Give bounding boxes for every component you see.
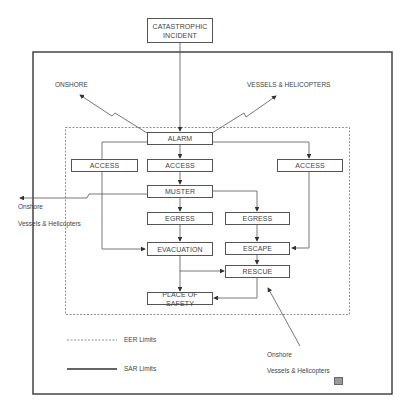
label-vessels-left: Vessels & Helicopters: [18, 220, 81, 227]
label-onshore-top: ONSHORE: [55, 81, 88, 88]
node-evacuation: EVACUATION: [147, 242, 213, 256]
label-vessels-bottom: Vessels & Helicopters: [267, 367, 330, 374]
label-onshore-left: Onshore: [18, 203, 43, 210]
node-alarm: ALARM: [147, 132, 213, 145]
legend-sar-label: SAR Limits: [124, 365, 156, 372]
node-access-left: ACCESS: [71, 159, 138, 172]
node-rescue: RESCUE: [225, 265, 290, 278]
node-place-of-safety: PLACE OF SAFETY: [147, 292, 213, 305]
node-catastrophic-incident: CATASTROPHIC INCIDENT: [147, 18, 213, 43]
node-access-center: ACCESS: [147, 159, 213, 172]
node-egress-center: EGRESS: [147, 212, 213, 225]
label-onshore-bottom: Onshore: [267, 351, 292, 358]
node-escape: ESCAPE: [225, 242, 290, 255]
legend-eer-label: EER Limits: [124, 336, 156, 343]
node-egress-right: EGRESS: [225, 212, 290, 225]
paste-options-icon[interactable]: [334, 377, 343, 385]
node-access-right: ACCESS: [277, 159, 343, 172]
diagram-lines: [0, 0, 409, 412]
label-vessels-top: VESSELS & HELICOPTERS: [247, 81, 330, 88]
node-muster: MUSTER: [147, 185, 213, 198]
